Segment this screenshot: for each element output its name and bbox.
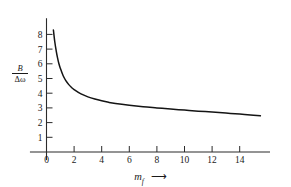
x-axis-ticks: 02468101214 (44, 146, 245, 165)
x-tick-label: 14 (235, 155, 245, 165)
y-axis-ticks: 12345678 (38, 30, 53, 143)
x-tick-label: 8 (155, 155, 160, 165)
y-tick-label: 6 (38, 59, 43, 69)
y-tick-label: 7 (38, 45, 43, 55)
data-curve (53, 30, 260, 116)
x-tick-label: 10 (180, 155, 190, 165)
axes (30, 18, 270, 160)
x-axis-subscript: f (142, 177, 144, 186)
y-axis-label: B Δω (6, 64, 34, 83)
y-tick-label: 2 (38, 118, 43, 128)
y-axis-denominator: Δω (12, 75, 27, 84)
y-tick-label: 1 (38, 133, 43, 143)
y-tick-label: 4 (38, 89, 43, 99)
x-tick-label: 12 (207, 155, 217, 165)
chart-container: 02468101214 12345678 B Δω mf⟶ (0, 0, 291, 187)
x-tick-label: 2 (72, 155, 77, 165)
arrow-icon: ⟶ (151, 170, 166, 183)
y-tick-label: 8 (38, 30, 43, 40)
x-axis-symbol: m (134, 171, 142, 182)
x-tick-label: 0 (44, 155, 49, 165)
y-tick-label: 5 (38, 74, 43, 84)
plot-area: 02468101214 12345678 (0, 0, 291, 187)
x-tick-label: 4 (99, 155, 104, 165)
x-axis-label: mf⟶ (134, 166, 166, 186)
y-axis-fraction: B Δω (12, 64, 27, 83)
y-axis-numerator: B (12, 64, 27, 73)
x-tick-label: 6 (127, 155, 132, 165)
curve-line (53, 30, 260, 116)
y-tick-label: 3 (38, 103, 43, 113)
